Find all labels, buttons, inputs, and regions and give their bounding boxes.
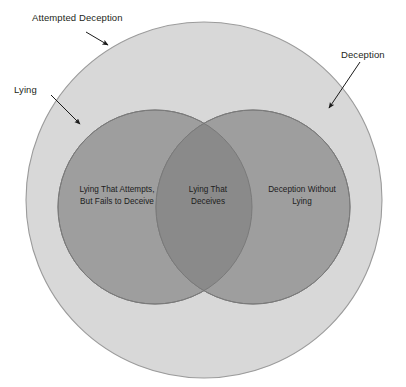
region-label-line-2: Lying: [250, 196, 354, 208]
callout-label-attempted-deception: Attempted Deception: [32, 12, 123, 23]
region-label-line-1: Deception Without: [250, 184, 354, 196]
region-label-lying-that-fails: Lying That Attempts, But Fails to Deceiv…: [62, 184, 172, 208]
region-label-line-2: But Fails to Deceive: [62, 196, 172, 208]
callout-label-deception: Deception: [341, 49, 385, 60]
venn-diagram: Attempted Deception Lying Deception Lyin…: [0, 0, 406, 387]
arrow-attempted-deception: [86, 32, 108, 45]
region-label-deception-without-lying: Deception Without Lying: [250, 184, 354, 208]
region-label-line-1: Lying That: [177, 184, 239, 196]
region-label-line-2: Deceives: [177, 196, 239, 208]
region-label-line-1: Lying That Attempts,: [62, 184, 172, 196]
region-label-lying-that-deceives: Lying That Deceives: [177, 184, 239, 208]
callout-label-lying: Lying: [14, 84, 37, 95]
